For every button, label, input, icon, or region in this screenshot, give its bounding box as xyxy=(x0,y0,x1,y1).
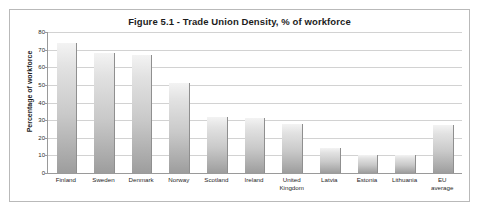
chart-title: Figure 5.1 - Trade Union Density, % of w… xyxy=(10,16,469,27)
bar xyxy=(395,155,416,173)
bar-slot xyxy=(48,32,86,173)
chart-container: Figure 5.1 - Trade Union Density, % of w… xyxy=(9,9,470,202)
y-axis-tick-label: 10 xyxy=(38,152,45,158)
bar xyxy=(320,148,341,173)
x-axis-tick-label: United Kingdom xyxy=(273,176,311,192)
x-axis-tick-label: Estonia xyxy=(348,176,386,192)
plot-area: 80706050403020100 xyxy=(47,32,462,174)
x-axis-tick-label: Latvia xyxy=(310,176,348,192)
bar xyxy=(245,118,266,173)
y-axis-tick-label: 70 xyxy=(38,47,45,53)
x-axis-tick-label: Sweden xyxy=(85,176,123,192)
bar-slot xyxy=(387,32,425,173)
x-axis-tick-label: Finland xyxy=(47,176,85,192)
y-axis-tick-label: 80 xyxy=(38,29,45,35)
bar xyxy=(169,83,190,173)
bar-slot xyxy=(123,32,161,173)
bar xyxy=(57,43,78,173)
bar xyxy=(282,124,303,173)
x-axis-tick-label: Scotland xyxy=(198,176,236,192)
bar-slot xyxy=(424,32,462,173)
y-axis-tick-label: 60 xyxy=(38,64,45,70)
bar-slot xyxy=(199,32,237,173)
x-axis-tick-label: EU average xyxy=(423,176,461,192)
y-axis-tick-mark xyxy=(45,173,48,174)
bar-series xyxy=(48,32,462,173)
bar-slot xyxy=(236,32,274,173)
x-axis-tick-label: Denmark xyxy=(122,176,160,192)
bar xyxy=(433,125,454,173)
y-axis-tick-label: 50 xyxy=(38,82,45,88)
x-axis-tick-label: Ireland xyxy=(235,176,273,192)
bar xyxy=(358,155,379,173)
y-axis-tick-label: 20 xyxy=(38,135,45,141)
bar xyxy=(132,55,153,173)
x-axis-labels: FinlandSwedenDenmarkNorwayScotlandIrelan… xyxy=(47,176,461,192)
bar-slot xyxy=(311,32,349,173)
bar-slot xyxy=(161,32,199,173)
y-axis-title: Percentage of workforce xyxy=(26,32,33,152)
bar xyxy=(94,53,115,173)
bar-slot xyxy=(349,32,387,173)
x-axis-tick-label: Lithuania xyxy=(386,176,424,192)
bar-slot xyxy=(86,32,124,173)
y-axis-tick-label: 40 xyxy=(38,100,45,106)
x-axis-tick-label: Norway xyxy=(160,176,198,192)
bar xyxy=(207,117,228,173)
bar-slot xyxy=(274,32,312,173)
y-axis-tick-label: 30 xyxy=(38,117,45,123)
